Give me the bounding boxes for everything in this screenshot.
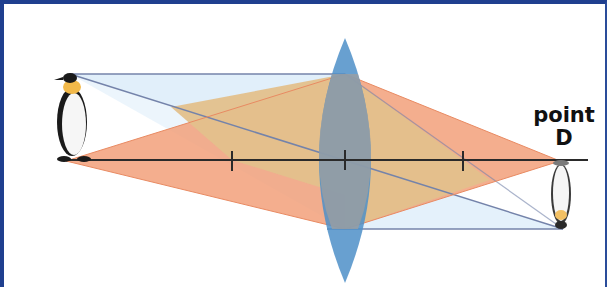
object-penguin-icon [54, 73, 91, 162]
point-label: point [528, 104, 600, 126]
point-d-label: D [540, 127, 588, 149]
ray-diagram [0, 0, 607, 287]
image-penguin-icon [551, 160, 571, 229]
